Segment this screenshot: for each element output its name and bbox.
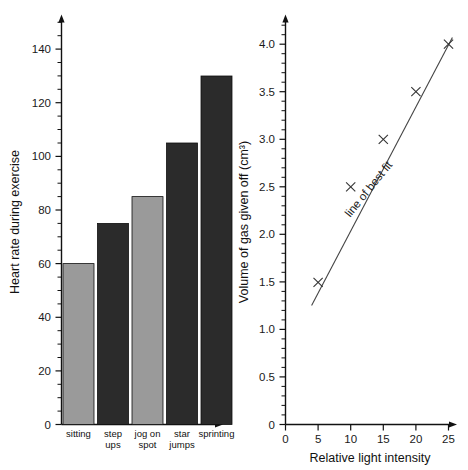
data-point-marker-5[interactable] xyxy=(444,40,453,49)
scatter-chart-x-ticks xyxy=(286,425,449,431)
scatter-y-tick-label-05: 0.5 xyxy=(259,371,275,383)
scatter-chart-x-axis-title: Relative light intensity xyxy=(310,451,432,465)
scatter-y-tick-label-15: 1.5 xyxy=(259,276,275,288)
bar-jog-on-spot[interactable] xyxy=(132,197,163,425)
scatter-chart-y-axis-title: Volume of gas given off (cm³) xyxy=(237,141,251,303)
bar-y-tick-label-140: 140 xyxy=(32,43,51,55)
scatter-y-tick-label-40: 4.0 xyxy=(259,38,275,50)
scatter-x-tick-label-0: 0 xyxy=(282,433,288,445)
scatter-chart-x-axis-arrow xyxy=(449,421,457,427)
bar-category-label-star-jumps-line1: star xyxy=(174,428,190,439)
bar-category-label-jog-on-spot-line2: spot xyxy=(139,439,157,450)
line-of-best-fit-label: line of best fit xyxy=(342,158,394,219)
scatter-y-tick-label-10: 1.0 xyxy=(259,323,275,335)
bar-chart: 0 20 40 60 80 100 120 140 Heart rate dur… xyxy=(8,15,234,451)
scatter-chart: 0 0.5 1.0 1.5 2.0 2.5 3.0 3.5 4.0 0 5 10… xyxy=(237,15,457,466)
scatter-x-tick-label-25: 25 xyxy=(442,433,455,445)
bar-chart-y-axis-title: Heart rate during exercise xyxy=(8,150,22,294)
scatter-y-tick-label-0: 0 xyxy=(269,419,275,431)
scatter-x-tick-label-10: 10 xyxy=(344,433,357,445)
data-point-marker-1[interactable] xyxy=(314,278,323,287)
bar-category-label-sprinting: sprinting xyxy=(199,428,235,439)
bar-category-label-sitting: sitting xyxy=(66,428,91,439)
bar-chart-y-axis-arrow xyxy=(58,15,64,23)
bar-category-label-step-ups-line1: step xyxy=(104,428,122,439)
data-point-marker-2[interactable] xyxy=(346,182,355,191)
bar-y-tick-label-60: 60 xyxy=(38,258,51,270)
data-point-marker-4[interactable] xyxy=(411,87,420,96)
bar-step-ups[interactable] xyxy=(98,223,129,424)
data-point-marker-3[interactable] xyxy=(379,135,388,144)
charts-svg: 0 20 40 60 80 100 120 140 Heart rate dur… xyxy=(0,0,468,470)
scatter-y-tick-label-30: 3.0 xyxy=(259,133,275,145)
bar-category-label-step-ups-line2: ups xyxy=(105,439,121,450)
bar-y-tick-label-80: 80 xyxy=(38,204,51,216)
bar-y-tick-label-20: 20 xyxy=(38,365,51,377)
bar-sprinting[interactable] xyxy=(201,76,232,425)
bar-category-label-jog-on-spot-line1: jog on xyxy=(134,428,161,439)
bar-category-label-star-jumps-line2: jumps xyxy=(168,439,195,450)
scatter-x-tick-label-15: 15 xyxy=(377,433,390,445)
scatter-x-tick-label-20: 20 xyxy=(410,433,423,445)
scatter-y-tick-label-20: 2.0 xyxy=(259,228,275,240)
bar-y-tick-label-100: 100 xyxy=(32,150,51,162)
scatter-x-tick-label-5: 5 xyxy=(315,433,321,445)
bar-star-jumps[interactable] xyxy=(167,143,198,425)
bar-sitting[interactable] xyxy=(63,264,94,425)
scatter-y-tick-label-25: 2.5 xyxy=(259,181,275,193)
bar-y-tick-label-0: 0 xyxy=(45,419,51,431)
bar-y-tick-label-40: 40 xyxy=(38,311,51,323)
figure-container: 0 20 40 60 80 100 120 140 Heart rate dur… xyxy=(0,0,468,470)
scatter-y-tick-label-35: 3.5 xyxy=(259,86,275,98)
scatter-chart-y-axis-arrow xyxy=(282,15,288,23)
bar-y-tick-label-120: 120 xyxy=(32,97,51,109)
